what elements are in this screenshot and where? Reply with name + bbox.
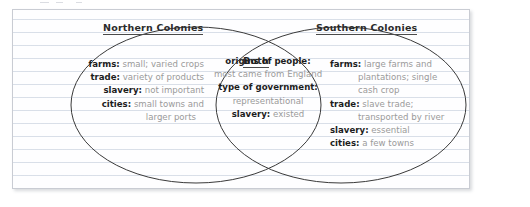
scan-artifact-mark-2 — [56, 2, 63, 3]
list-item: cities: small towns and — [62, 98, 204, 111]
entry-label: type of government: — [218, 82, 318, 92]
entry-continuation: transported by river — [330, 111, 480, 124]
entry-value: slave trade; — [362, 99, 413, 109]
entry-value: essential — [371, 125, 409, 135]
entry-label: trade: — [330, 99, 360, 109]
list-item: type of government: — [210, 81, 326, 94]
entry-value: variety of products — [123, 72, 204, 82]
list-item: trade: variety of products — [62, 71, 204, 84]
entry-label: slavery: — [103, 85, 142, 95]
overlap-set-entries: origins of people: most came from Englan… — [210, 55, 326, 121]
list-item: trade: slave trade; — [330, 98, 480, 111]
entry-value: most came from England — [210, 68, 326, 81]
list-item: cities: a few towns — [330, 137, 480, 150]
entry-value: representational — [210, 95, 326, 108]
entry-label: trade: — [90, 72, 120, 82]
list-item: slavery: not important — [62, 84, 204, 97]
right-set-title: Southern Colonies — [316, 22, 417, 35]
list-item: slavery: existed — [210, 108, 326, 121]
left-set-title: Northern Colonies — [103, 22, 203, 35]
scan-artifact-mark-1 — [40, 2, 49, 3]
entry-value: small; varied crops — [122, 59, 204, 69]
entry-label: farms: — [330, 59, 361, 69]
entry-value: small towns and — [134, 99, 204, 109]
left-set-entries: farms: small; varied crops trade: variet… — [62, 58, 204, 124]
list-item: farms: small; varied crops — [62, 58, 204, 71]
entry-label: origins of people: — [225, 56, 310, 66]
entry-label: cities: — [102, 99, 131, 109]
entry-value: existed — [273, 109, 304, 119]
entry-label: farms: — [88, 59, 119, 69]
screenshot-root: Northern Colonies Southern Colonies Both… — [0, 0, 530, 207]
entry-continuation: plantations; single — [330, 71, 480, 84]
entry-label: slavery: — [232, 109, 271, 119]
entry-value: not important — [145, 85, 204, 95]
list-item: origins of people: — [210, 55, 326, 68]
list-item: farms: large farms and — [330, 58, 480, 71]
entry-label: cities: — [330, 138, 359, 148]
entry-label: slavery: — [330, 125, 369, 135]
entry-value: large farms and — [364, 59, 432, 69]
right-set-entries: farms: large farms and plantations; sing… — [330, 58, 480, 150]
list-item: slavery: essential — [330, 124, 480, 137]
scan-artifact-mark-3 — [76, 2, 82, 3]
entry-continuation: cash crop — [330, 84, 480, 97]
entry-continuation: larger ports — [62, 111, 204, 124]
entry-value: a few towns — [362, 138, 414, 148]
